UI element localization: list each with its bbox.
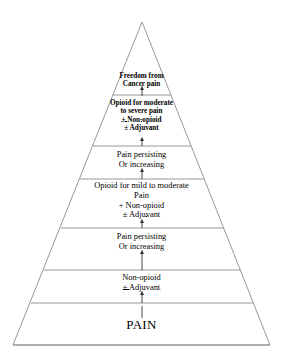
tier-line: Or increasing <box>0 160 283 170</box>
tier-line: ± Adjuvant <box>0 124 283 132</box>
tier-label-step-1: Non-opioid ± Adjuvant <box>0 273 283 293</box>
tier-line: Pain persisting <box>0 232 283 242</box>
transition-label-upper: Pain persisting Or increasing <box>0 150 283 170</box>
tier-line: Opioid for mild to moderate <box>0 181 283 191</box>
tier-line: Pain persisting <box>0 150 283 160</box>
tier-label-step-3: Opioid for moderate to severe pain ± Non… <box>0 99 283 132</box>
tier-label-step-2: Opioid for mild to moderate Pain + Non-o… <box>0 181 283 220</box>
tier-line: PAIN <box>0 317 283 332</box>
tier-line: to severe pain <box>0 107 283 115</box>
tier-line: Cancer pain <box>0 80 283 88</box>
tier-line: Pain <box>0 191 283 201</box>
tier-line: Or increasing <box>0 242 283 252</box>
tier-line: Opioid for moderate <box>0 99 283 107</box>
base-label-pain: PAIN <box>0 317 283 332</box>
pyramid-outline-svg <box>0 0 283 359</box>
tier-line: + Non-opioid <box>0 201 283 211</box>
tier-line: Non-opioid <box>0 273 283 283</box>
tier-line: Freedom from <box>0 72 283 80</box>
tier-label-freedom-from-cancer-pain: Freedom from Cancer pain <box>0 72 283 89</box>
tier-line: ± Non-opioid <box>0 116 283 124</box>
who-analgesic-ladder-figure: Freedom from Cancer pain Opioid for mode… <box>0 0 283 359</box>
tier-line: ± Adjuvant <box>0 210 283 220</box>
transition-label-lower: Pain persisting Or increasing <box>0 232 283 252</box>
tier-line: ± Adjuvant <box>0 283 283 293</box>
